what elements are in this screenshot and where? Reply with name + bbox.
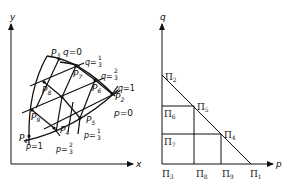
svg-text:3: 3 [69, 148, 73, 155]
node-label-p2: P2 [115, 92, 124, 103]
node-label-pi1: Π1 [250, 169, 262, 180]
node-label-pi2: Π2 [165, 72, 177, 83]
label-q-1-3: q= 1 3 [85, 54, 102, 68]
y-axis-label: y [9, 12, 16, 22]
svg-text:q=: q= [101, 72, 113, 81]
grid-line [44, 91, 120, 129]
q-axis-label: q [160, 12, 166, 22]
left-panel: y x [9, 12, 142, 169]
curve-p-1 [29, 56, 47, 138]
p-axis-label: p [275, 159, 282, 169]
svg-text:p=: p= [83, 131, 96, 140]
label-p-0: p=0 [113, 108, 133, 118]
node-label-p7: P7 [73, 69, 82, 80]
node-label-pi7: Π7 [164, 137, 176, 148]
label-p-1-3: p= 1 3 [83, 127, 101, 141]
x-axis-label: x [135, 159, 142, 169]
node-label-pi5: Π5 [197, 102, 209, 113]
grid-line [36, 59, 59, 108]
node-label-pi4: Π4 [224, 130, 236, 141]
svg-text:q=: q= [85, 58, 97, 67]
node-label-pi3: Π3 [162, 169, 174, 180]
node-label-p9: P9 [31, 112, 40, 123]
diagram-canvas: y x [0, 0, 288, 188]
label-p-1: p=1 [25, 142, 43, 151]
svg-text:1: 1 [98, 54, 102, 61]
right-panel: q p Π2 Π5 Π4 Π6 Π7 Π3 Π8 Π9 Π1 [160, 12, 282, 180]
label-q-0: q=0 [63, 47, 82, 57]
svg-text:3: 3 [114, 74, 118, 81]
label-p-2-3: p= 2 3 [55, 141, 73, 155]
label-q-1: q=1 [118, 84, 135, 93]
svg-text:3: 3 [97, 134, 101, 141]
svg-text:2: 2 [114, 67, 118, 74]
node-label-pi9: Π9 [222, 169, 234, 180]
node-label-pi8: Π8 [196, 169, 208, 180]
label-q-2-3: q= 2 3 [101, 67, 118, 81]
node-label-pi6: Π6 [164, 109, 176, 120]
svg-text:3: 3 [98, 61, 102, 68]
node-label-p3: P3 [51, 48, 60, 59]
svg-text:1: 1 [97, 127, 101, 134]
svg-text:2: 2 [69, 141, 73, 148]
node-label-p4: P4 [60, 125, 69, 136]
node-label-p5: P5 [86, 115, 95, 126]
svg-text:p=: p= [55, 145, 68, 154]
